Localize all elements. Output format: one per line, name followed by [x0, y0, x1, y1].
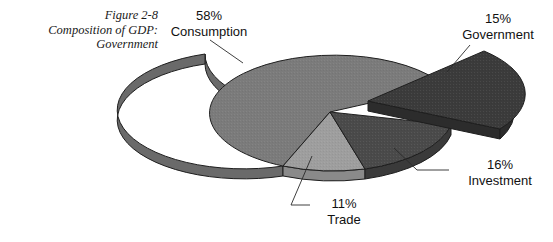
slice-value-consumption: 58% [163, 8, 255, 24]
slice-value-trade: 11% [313, 196, 375, 212]
slice-label-government: 15% Government [448, 11, 548, 42]
slice-value-government: 15% [448, 11, 548, 27]
slice-value-investment: 16% [452, 157, 548, 173]
slice-name-trade: Trade [313, 212, 375, 228]
figure-container: Figure 2-8 Composition of GDP: Governmen… [0, 0, 553, 242]
slice-name-government: Government [448, 27, 548, 43]
slice-label-consumption: 58% Consumption [163, 8, 255, 39]
leader-line-consumption [210, 40, 243, 63]
slice-label-investment: 16% Investment [452, 157, 548, 188]
slice-label-trade: 11% Trade [313, 196, 375, 227]
slice-name-consumption: Consumption [163, 24, 255, 40]
slice-name-investment: Investment [452, 173, 548, 189]
